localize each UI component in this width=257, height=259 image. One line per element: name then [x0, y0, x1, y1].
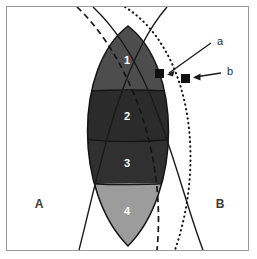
figure-frame: 1 2 3 4 A B a b: [6, 6, 249, 251]
marker-label-a: a: [217, 35, 224, 47]
region-label-3: 3: [124, 157, 130, 169]
overlap-diagram: 1 2 3 4 A B a b: [7, 7, 248, 250]
set-label-b: B: [216, 197, 225, 211]
marker-label-b: b: [227, 65, 233, 77]
set-label-a: A: [35, 197, 44, 211]
region-label-1: 1: [124, 54, 130, 66]
region-label-4: 4: [124, 205, 131, 217]
marker-square-b: [181, 74, 190, 83]
marker-square-a: [155, 69, 164, 78]
region-label-2: 2: [124, 110, 130, 122]
